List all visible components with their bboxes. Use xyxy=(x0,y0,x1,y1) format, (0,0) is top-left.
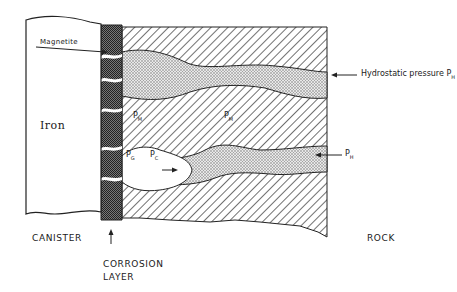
corrosion-layer xyxy=(101,25,122,220)
hydrostatic-pressure-label: Hydrostatic pressure PH xyxy=(361,69,455,80)
rock-caption: ROCK xyxy=(367,233,395,243)
canister-caption: CANISTER xyxy=(32,233,82,243)
magnetite-label: Magnetite xyxy=(40,38,78,46)
pm-label-left: PM xyxy=(133,111,142,122)
ph-label: PH xyxy=(345,149,354,160)
corrosion-caption-line2: LAYER xyxy=(103,272,134,282)
pg-label: PG xyxy=(126,150,135,161)
corrosion-caption-line1: CORROSION xyxy=(103,259,164,269)
iron-canister xyxy=(26,16,101,214)
iron-label: Iron xyxy=(40,119,65,132)
pc-label: PC xyxy=(150,150,158,161)
pm-label-center: PM xyxy=(224,111,233,122)
